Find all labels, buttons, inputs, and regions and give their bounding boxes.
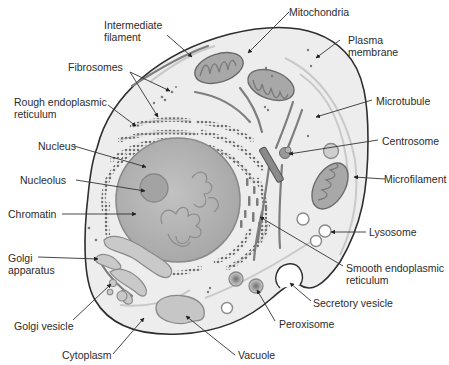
- label-microfilament: Microfilament: [384, 173, 446, 185]
- label-cytoplasm: Cytoplasm: [62, 349, 112, 361]
- label-lysosome: Lysosome: [369, 226, 416, 238]
- label-chromatin: Chromatin: [8, 208, 56, 220]
- label-fibrosomes: Fibrosomes: [68, 61, 123, 73]
- label-centrosome: Centrosome: [382, 135, 439, 147]
- label-peroxisome: Peroxisome: [279, 318, 334, 330]
- label-golgi-apparatus: Golgi apparatus: [8, 252, 55, 276]
- label-rough-endoplasmic-reticulum: Rough endoplasmic reticulum: [14, 96, 107, 120]
- vesicle: [324, 144, 339, 159]
- nucleolus-shape: [140, 174, 168, 202]
- label-smooth-endoplasmic-reticulum: Smooth endoplasmic reticulum: [346, 262, 444, 286]
- secretory-vesicle-shape: [276, 264, 303, 288]
- label-plasma-membrane: Plasma membrane: [348, 34, 398, 58]
- label-mitochondria: Mitochondria: [289, 6, 349, 18]
- label-golgi-vesicle: Golgi vesicle: [14, 320, 74, 332]
- label-vacuole: Vacuole: [238, 349, 275, 361]
- label-secretory-vesicle: Secretory vesicle: [313, 297, 393, 309]
- label-microtubule: Microtubule: [376, 95, 430, 107]
- label-nucleus: Nucleus: [38, 140, 76, 152]
- label-nucleolus: Nucleolus: [20, 174, 66, 186]
- animal-cell-diagram: Intermediate filament Mitochondria Plasm…: [0, 0, 449, 365]
- label-intermediate-filament: Intermediate filament: [104, 19, 162, 43]
